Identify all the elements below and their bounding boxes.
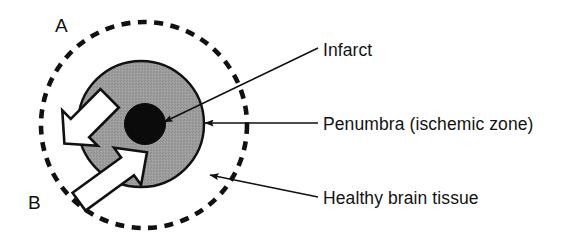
leader-line-healthy-brain-tissue	[210, 175, 318, 197]
callout-label-penumbra: Penumbra (ischemic zone)	[323, 116, 534, 134]
infarct-core	[125, 104, 166, 145]
callout-label-infarct: Infarct	[323, 42, 372, 60]
panel-letter-a: A	[55, 16, 68, 35]
panel-letter-b: B	[28, 193, 41, 212]
callout-label-healthy-brain-tissue: Healthy brain tissue	[323, 190, 479, 208]
infarct-penumbra-figure: A B Infarct Penumbra (ischemic zone) Hea…	[0, 0, 582, 243]
